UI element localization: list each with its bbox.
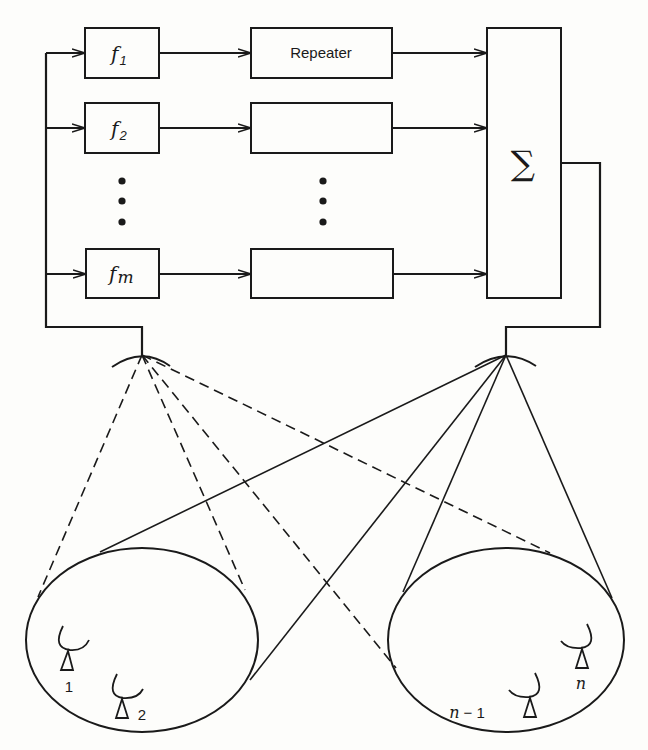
summing-combiner: ∑ [487, 28, 561, 298]
diagram-canvas: f1 Repeater f2 fm ∑ [0, 0, 648, 750]
dish-icon [113, 674, 143, 698]
repeater-label: Repeater [290, 44, 352, 61]
terminal-label-2: 2 [138, 706, 146, 723]
beam-solid-left-outer [100, 355, 506, 552]
antenna-mount-icon [524, 698, 536, 717]
input-bus [46, 53, 142, 355]
dish-icon [561, 624, 591, 648]
beam-solid-right-outer [506, 355, 612, 598]
antenna-mount-icon [116, 699, 128, 718]
beam-dashed-right-outer [142, 355, 550, 553]
terminal-label-n: n [576, 674, 586, 693]
earth-station-n-1: n − 1 [449, 673, 539, 722]
antenna-mount-icon [576, 649, 588, 668]
earth-station-n: n [561, 624, 591, 693]
dish-icon [509, 673, 539, 697]
repeater-box-2 [251, 103, 392, 153]
dish-icon [59, 626, 89, 650]
left-coverage-area: 1 2 [26, 548, 258, 732]
terminal-label-n-1: n − 1 [449, 703, 485, 722]
terminal-label-1: 1 [65, 678, 73, 695]
ellipsis-dots-repeaters [319, 177, 326, 225]
beam-dashed-left-inner [142, 355, 245, 590]
sigma-icon: ∑ [511, 143, 535, 183]
ellipsis-dots-filters [118, 177, 125, 225]
earth-station-1: 1 [59, 626, 89, 695]
right-coverage-area: n − 1 n [388, 548, 624, 732]
repeater-box-m [251, 249, 393, 298]
uplink-beams [38, 355, 550, 668]
beam-solid-left-inner [250, 355, 506, 680]
coverage-ellipse-right [388, 548, 624, 732]
antenna-mount-icon [61, 651, 73, 670]
beam-dashed-right-inner [142, 355, 396, 668]
beam-dashed-left-outer [38, 355, 142, 597]
channel-1: f1 Repeater [85, 28, 487, 78]
downlink-beams [100, 355, 612, 680]
channel-2: f2 [85, 103, 487, 153]
channel-m: fm [86, 249, 487, 298]
earth-station-2: 2 [113, 674, 146, 723]
coverage-ellipse-left [26, 548, 258, 732]
